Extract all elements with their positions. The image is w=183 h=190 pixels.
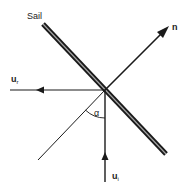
sail-reflection-diagram: Sail n ur ui α [0,0,183,190]
arrowhead-icon [36,87,44,94]
incident-extension-line [38,90,105,160]
reflected-label: ur [11,74,19,85]
incident-vector [102,90,109,182]
arrowhead-icon [102,152,109,160]
incident-label: ui [112,171,119,182]
reflected-vector [10,87,105,94]
sail-label: Sail [27,11,42,21]
angle-label: α [94,108,99,118]
normal-label: n [172,22,178,32]
normal-vector [105,26,169,90]
